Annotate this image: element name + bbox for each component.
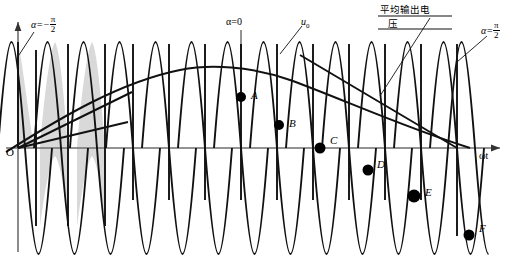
alpha-right-denominator: 2 [493,31,500,40]
point-label-E: E [425,186,432,198]
point-label-A: A [251,89,258,101]
shaded-area-group [18,42,105,226]
point-label-C: C [330,134,337,146]
waveform-figure: O ωt α=−π2 α=0 u0 平均输出电 压 α=π2 A B C D E… [0,0,517,257]
average-output-voltage-label-line2: 压 [388,17,398,30]
alpha-right-label: α=π2 [481,22,500,41]
alpha-left-denominator: 2 [50,25,57,34]
u0-subscript: 0 [306,22,310,30]
point-label-B: B [289,117,296,129]
marker-dot-B[interactable] [274,120,284,130]
marker-dot-E[interactable] [408,190,421,203]
marker-dot-C[interactable] [315,143,326,154]
leader-line-alpha-left [17,32,34,58]
marker-dot-F[interactable] [464,230,475,241]
origin-label: O [6,146,14,158]
leader-line-u0 [280,26,302,54]
alpha-left-prefix: α=− [31,19,50,30]
alpha-left-label: α=−π2 [31,16,56,35]
x-axis-arrowhead [491,144,500,151]
alpha-right-fraction: π2 [493,21,500,40]
point-label-D: D [377,158,385,170]
alpha-right-prefix: α= [481,25,493,36]
y-axis-arrowhead [15,22,22,31]
average-output-voltage-label-line1: 平均输出电 [380,3,430,16]
alpha-left-fraction: π2 [50,15,57,34]
marker-dot-D[interactable] [363,165,374,176]
x-axis-label: ωt [479,150,488,161]
alpha-zero-label: α=0 [226,16,242,27]
point-label-F: F [479,222,486,234]
waveform-canvas [0,0,517,257]
u0-label: u0 [301,16,310,30]
marker-dot-A[interactable] [236,92,246,102]
